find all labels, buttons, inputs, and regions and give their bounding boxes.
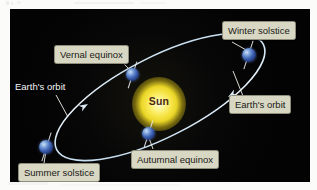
label-winter-solstice: Winter solstice	[222, 21, 296, 40]
scan-artifact	[6, 1, 9, 5]
label-summer-solstice: Summer solstice	[18, 163, 100, 182]
scanned-page: Sun Winter solstice Vernal equinox Earth…	[0, 0, 317, 190]
earth-sphere-autumnal-equinox	[142, 127, 155, 140]
scan-artifact	[17, 1, 21, 4]
label-autumnal-equinox: Autumnal equinox	[131, 150, 219, 169]
scan-artifact	[8, 182, 48, 185]
scan-artifact	[140, 2, 166, 4]
label-earths-orbit-left: Earth's orbit	[15, 82, 65, 92]
label-vernal-equinox: Vernal equinox	[54, 45, 129, 64]
earth-sphere-summer-solstice	[39, 140, 53, 154]
sun-label: Sun	[132, 95, 186, 107]
scan-artifact	[60, 184, 180, 186]
scan-artifact	[74, 2, 134, 4]
earth-sphere-vernal-equinox	[126, 68, 139, 81]
earth-orbit-diagram: Sun Winter solstice Vernal equinox Earth…	[10, 9, 310, 182]
scan-artifact	[11, 2, 13, 5]
label-earths-orbit-right: Earth's orbit	[229, 95, 291, 114]
leader-line-earths-orbit-left	[56, 95, 68, 117]
earth-sphere-winter-solstice	[242, 48, 256, 62]
